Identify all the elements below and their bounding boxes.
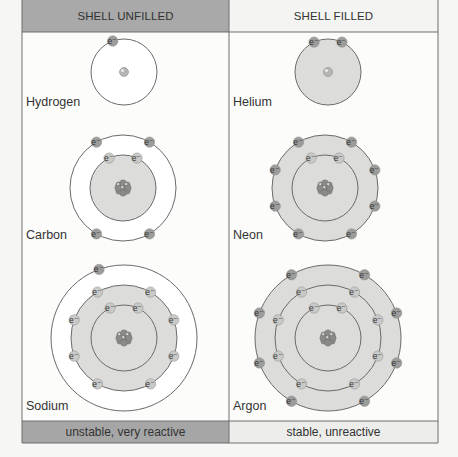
svg-text:e⁻: e⁻ [349,287,359,297]
svg-text:e⁻: e⁻ [145,287,155,297]
electron-icon: e⁻ [105,303,115,313]
svg-text:e⁻: e⁻ [391,308,401,318]
electron-icon: e⁻ [132,153,142,163]
atom-shell-diagram: e⁻e⁻e⁻e⁻e⁻e⁻e⁻e⁻e⁻e⁻e⁻e⁻e⁻e⁻e⁻e⁻e⁻e⁻e⁻e⁻… [0,0,458,457]
electron-icon: e⁻ [391,358,401,368]
svg-text:e⁻: e⁻ [273,351,283,361]
electron-icon: e⁻ [92,379,102,389]
header-shell-unfilled: SHELL UNFILLED [22,0,229,32]
svg-text:e⁻: e⁻ [286,396,296,406]
electron-icon: e⁻ [144,137,154,147]
svg-text:e⁻: e⁻ [337,37,347,47]
electron-icon: e⁻ [296,287,306,297]
svg-text:e⁻: e⁻ [309,37,319,47]
svg-text:e⁻: e⁻ [94,264,104,274]
svg-text:e⁻: e⁻ [104,153,114,163]
electron-icon: e⁻ [69,351,79,361]
electron-icon: e⁻ [286,396,296,406]
electron-icon: e⁻ [144,229,154,239]
svg-text:e⁻: e⁻ [359,270,369,280]
svg-text:e⁻: e⁻ [92,379,102,389]
svg-text:e⁻: e⁻ [132,153,142,163]
atom-carbon: e⁻e⁻e⁻e⁻e⁻e⁻ [70,135,176,241]
electron-icon: e⁻ [359,396,369,406]
svg-text:e⁻: e⁻ [293,137,303,147]
svg-text:e⁻: e⁻ [145,379,155,389]
atom-label-sodium: Sodium [26,399,68,413]
svg-text:e⁻: e⁻ [169,315,179,325]
svg-text:e⁻: e⁻ [309,303,319,313]
electron-icon: e⁻ [169,351,179,361]
electron-icon: e⁻ [337,37,347,47]
svg-text:e⁻: e⁻ [306,153,316,163]
svg-text:e⁻: e⁻ [144,229,154,239]
electron-icon: e⁻ [133,303,143,313]
svg-text:e⁻: e⁻ [391,358,401,368]
header-shell-filled: SHELL FILLED [229,0,438,32]
svg-text:e⁻: e⁻ [296,287,306,297]
svg-text:e⁻: e⁻ [254,308,264,318]
svg-text:e⁻: e⁻ [349,379,359,389]
svg-text:e⁻: e⁻ [105,303,115,313]
svg-text:e⁻: e⁻ [270,165,280,175]
electron-icon: e⁻ [108,36,118,46]
electron-icon: e⁻ [273,351,283,361]
electron-icon: e⁻ [296,379,306,389]
electron-icon: e⁻ [91,137,101,147]
svg-text:e⁻: e⁻ [69,315,79,325]
electron-icon: e⁻ [293,137,303,147]
nucleus-icon [324,68,333,77]
svg-text:e⁻: e⁻ [286,270,296,280]
svg-text:e⁻: e⁻ [108,36,118,46]
nucleus-icon [115,180,131,196]
electron-icon: e⁻ [94,264,104,274]
atom-sodium: e⁻e⁻e⁻e⁻e⁻e⁻e⁻e⁻e⁻e⁻e⁻ [51,264,197,411]
nucleus-icon [116,330,132,346]
svg-text:e⁻: e⁻ [296,379,306,389]
atom-label-neon: Neon [233,228,263,242]
svg-text:e⁻: e⁻ [273,315,283,325]
electron-icon: e⁻ [286,270,296,280]
svg-text:e⁻: e⁻ [169,351,179,361]
electron-icon: e⁻ [309,37,319,47]
electron-icon: e⁻ [92,287,102,297]
svg-text:e⁻: e⁻ [337,303,347,313]
svg-text:e⁻: e⁻ [254,358,264,368]
electron-icon: e⁻ [91,229,101,239]
electron-icon: e⁻ [346,229,356,239]
svg-text:e⁻: e⁻ [370,165,380,175]
electron-icon: e⁻ [293,229,303,239]
electron-icon: e⁻ [309,303,319,313]
svg-text:e⁻: e⁻ [144,137,154,147]
svg-text:e⁻: e⁻ [346,229,356,239]
electron-icon: e⁻ [254,308,264,318]
footer-unstable-reactive: unstable, very reactive [22,421,229,443]
electron-icon: e⁻ [145,379,155,389]
atom-neon: e⁻e⁻e⁻e⁻e⁻e⁻e⁻e⁻e⁻e⁻ [270,135,380,241]
electron-icon: e⁻ [359,270,369,280]
nucleus-icon [317,180,333,196]
nucleus-icon [120,68,129,77]
electron-icon: e⁻ [306,153,316,163]
electron-icon: e⁻ [145,287,155,297]
electron-icon: e⁻ [273,315,283,325]
svg-text:e⁻: e⁻ [133,303,143,313]
svg-text:e⁻: e⁻ [346,137,356,147]
svg-text:e⁻: e⁻ [270,201,280,211]
electron-icon: e⁻ [349,287,359,297]
electron-icon: e⁻ [270,165,280,175]
svg-text:e⁻: e⁻ [334,153,344,163]
electron-icon: e⁻ [370,201,380,211]
electron-icon: e⁻ [169,315,179,325]
electron-icon: e⁻ [254,358,264,368]
svg-text:e⁻: e⁻ [359,396,369,406]
electron-icon: e⁻ [346,137,356,147]
electron-icon: e⁻ [373,315,383,325]
atom-label-hydrogen: Hydrogen [26,95,80,109]
electron-icon: e⁻ [349,379,359,389]
svg-text:e⁻: e⁻ [91,137,101,147]
svg-text:e⁻: e⁻ [91,229,101,239]
svg-text:e⁻: e⁻ [293,229,303,239]
atom-argon: e⁻e⁻e⁻e⁻e⁻e⁻e⁻e⁻e⁻e⁻e⁻e⁻e⁻e⁻e⁻e⁻e⁻e⁻ [254,265,402,411]
electron-icon: e⁻ [337,303,347,313]
